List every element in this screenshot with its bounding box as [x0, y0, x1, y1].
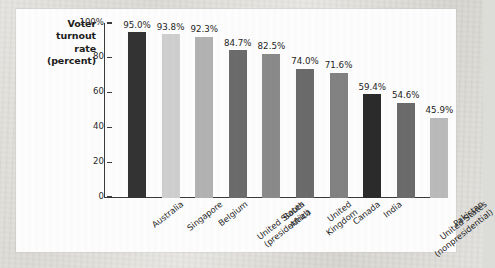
y-tick-label: 40 [93, 121, 104, 131]
bar-value-label: 82.5% [258, 41, 286, 51]
y-axis-title-line-2: turnout [22, 30, 96, 42]
x-axis-category-labels: AustraliaSingaporeBelgiumUnited States(p… [104, 199, 464, 268]
bar-group[interactable]: 71.6% [330, 23, 348, 198]
bar-group[interactable]: 95.0% [128, 23, 146, 198]
bar[interactable] [397, 103, 415, 198]
bar-value-label: 59.4% [358, 82, 386, 92]
bar-value-label: 92.3% [190, 24, 218, 34]
bar-group[interactable]: 82.5% [262, 23, 280, 198]
bar-value-label: 45.9% [426, 105, 454, 115]
bar-group[interactable]: 84.7% [229, 23, 247, 198]
bar-group[interactable]: 54.6% [397, 23, 415, 198]
bar[interactable] [229, 50, 247, 197]
x-axis-label: United States(nonpresidential) [426, 199, 495, 259]
bar-value-label: 71.6% [325, 60, 353, 70]
plot-area: 100%806040200 95.0%93.8%92.3%84.7%82.5%7… [104, 23, 444, 198]
y-tick-label: 20 [93, 156, 104, 166]
bar[interactable] [195, 37, 213, 198]
bar-value-label: 93.8% [157, 22, 185, 32]
bar[interactable] [296, 69, 314, 198]
bar-series: 95.0%93.8%92.3%84.7%82.5%74.0%71.6%59.4%… [104, 23, 444, 198]
x-axis-label-line: India [382, 199, 404, 220]
bar[interactable] [363, 94, 381, 197]
x-axis-label-line: Singapore [185, 199, 224, 233]
bar[interactable] [430, 118, 448, 198]
bar[interactable] [162, 34, 180, 197]
x-axis-label-line: Australia [150, 199, 185, 230]
bar-value-label: 54.6% [392, 90, 420, 100]
y-tick-label: 60 [93, 86, 104, 96]
y-tick-label: 100% [79, 17, 104, 27]
chart-figure-panel: Voter turnout rate (percent) 100%8060402… [16, 9, 456, 252]
bar-group[interactable]: 45.9% [430, 23, 448, 198]
bar-group[interactable]: 93.8% [162, 23, 180, 198]
x-axis-label: India [382, 199, 404, 220]
bar[interactable] [330, 73, 348, 198]
bar[interactable] [262, 54, 280, 198]
bar[interactable] [128, 32, 146, 197]
y-axis-title-line-3: rate [22, 43, 96, 55]
y-tick-label: 80 [93, 51, 104, 61]
bar-group[interactable]: 92.3% [195, 23, 213, 198]
bar-value-label: 74.0% [291, 56, 319, 66]
y-axis-title-line-4: (percent) [22, 55, 96, 67]
x-axis-label: Australia [150, 199, 185, 230]
bar-value-label: 95.0% [123, 20, 151, 30]
bar-group[interactable]: 59.4% [363, 23, 381, 198]
bar-group[interactable]: 74.0% [296, 23, 314, 198]
bar-value-label: 84.7% [224, 38, 252, 48]
x-axis-label: Singapore [185, 199, 224, 233]
